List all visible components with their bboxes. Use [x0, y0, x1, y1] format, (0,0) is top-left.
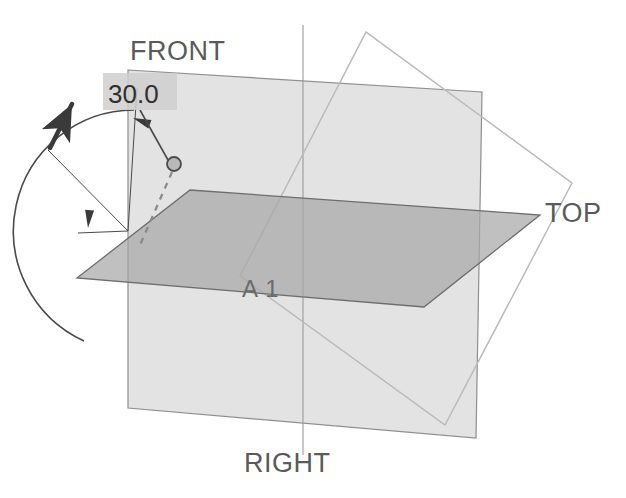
front-plane-label: FRONT [130, 36, 225, 66]
arc-arrow-head-bottom [85, 210, 94, 228]
normal-direction-arrow-group [50, 104, 72, 148]
dimension-drag-handle[interactable] [167, 157, 181, 171]
top-plane-label: TOP [545, 198, 602, 228]
dimension-value-label[interactable]: 30.0 [108, 79, 159, 109]
cad-drawing-canvas[interactable]: 30.0 FRONT TOP RIGHT A 1 [0, 0, 626, 498]
sketch-name-label: A 1 [242, 275, 280, 302]
angle-dimension-arc[interactable] [13, 110, 134, 341]
right-plane-label: RIGHT [244, 448, 331, 478]
dimension-value-group[interactable]: 30.0 [103, 73, 177, 110]
extension-line-horizontal [78, 231, 128, 233]
cad-viewport[interactable]: 30.0 FRONT TOP RIGHT A 1 [0, 0, 626, 498]
normal-direction-arrow [50, 104, 72, 148]
